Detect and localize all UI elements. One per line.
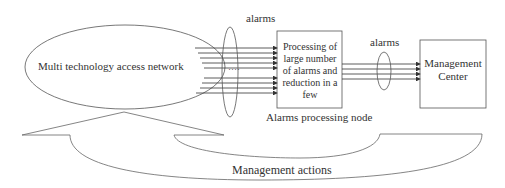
management-actions-label: Management actions [232, 163, 332, 178]
network-label: Multi technology access network [38, 60, 184, 72]
diagram-canvas [0, 0, 505, 188]
left-alarms-label: alarms [246, 12, 275, 24]
right-alarm-arrows [342, 64, 420, 79]
processing-text-line: large number [279, 53, 341, 65]
ellipsis: ···· [228, 64, 240, 74]
processing-text-line: of alarms and [279, 65, 341, 77]
right-alarms-ellipse [377, 52, 391, 90]
processing-node-text: Processing of large number of alarms and… [279, 41, 341, 101]
processing-text-line: reduction in a [279, 77, 341, 89]
processing-text-line: Processing of [279, 41, 341, 53]
management-center-line: Management [420, 57, 486, 70]
processing-text-line: few [279, 89, 341, 101]
management-center-line: Center [420, 70, 486, 83]
management-center-text: Management Center [420, 57, 486, 83]
right-alarms-label: alarms [370, 36, 399, 48]
processing-node-caption: Alarms processing node [266, 111, 372, 123]
